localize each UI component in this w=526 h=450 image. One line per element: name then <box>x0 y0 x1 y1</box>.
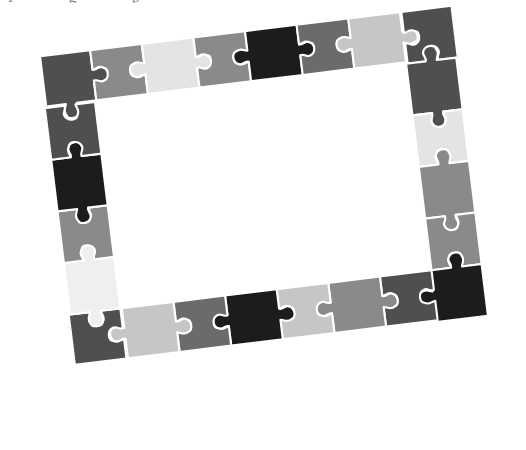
puzzle-frame-svg <box>0 0 526 450</box>
puzzle-frame-stage <box>0 0 526 450</box>
puzzle-frame-group <box>37 4 490 366</box>
